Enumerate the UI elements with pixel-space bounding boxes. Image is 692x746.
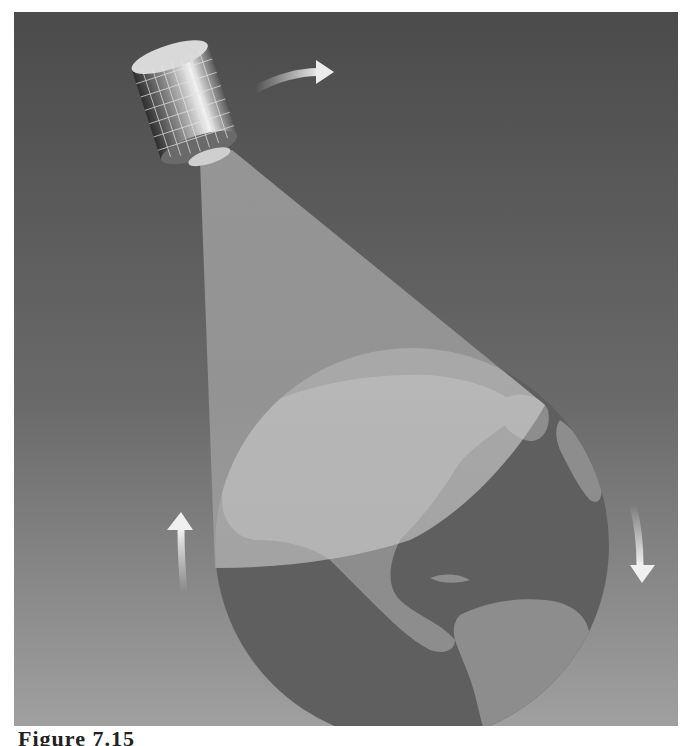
figure-illustration (14, 12, 678, 726)
figure-caption: Figure 7.15 (18, 728, 135, 746)
